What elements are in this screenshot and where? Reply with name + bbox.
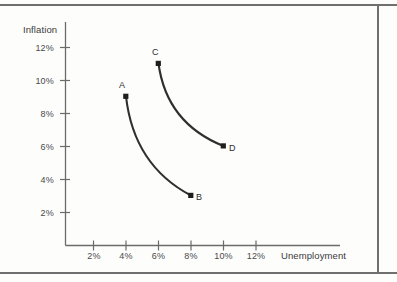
- y-tick-label-6: 6%: [20, 142, 54, 152]
- x-tick-label-12: 12%: [241, 251, 271, 261]
- point-label-a: A: [119, 80, 125, 90]
- x-axis-title: Unemployment: [281, 250, 346, 261]
- phillips-curve-2: [159, 64, 224, 147]
- x-tick-label-6: 6%: [144, 251, 174, 261]
- y-tick-label-12: 12%: [20, 43, 54, 53]
- x-tick-label-4: 4%: [111, 251, 141, 261]
- data-point-d: [221, 143, 226, 148]
- point-label-b: B: [196, 192, 202, 202]
- data-point-b: [188, 193, 193, 198]
- chart-figure: Inflation Unemployment 2% 4% 6% 8% 10% 1…: [0, 0, 397, 282]
- x-tick-label-10: 10%: [209, 251, 239, 261]
- y-tick-label-8: 8%: [20, 109, 54, 119]
- point-label-c: C: [152, 47, 159, 57]
- point-label-d: D: [229, 143, 236, 153]
- y-tick-label-10: 10%: [20, 76, 54, 86]
- y-tick-label-2: 2%: [20, 208, 54, 218]
- x-tick-label-2: 2%: [79, 251, 109, 261]
- y-axis-title: Inflation: [23, 24, 57, 35]
- phillips-curve-plot: [0, 0, 397, 282]
- y-tick-label-4: 4%: [20, 175, 54, 185]
- x-tick-label-8: 8%: [176, 251, 206, 261]
- data-point-a: [123, 94, 128, 99]
- data-point-c: [156, 61, 161, 66]
- phillips-curve-1: [126, 97, 191, 196]
